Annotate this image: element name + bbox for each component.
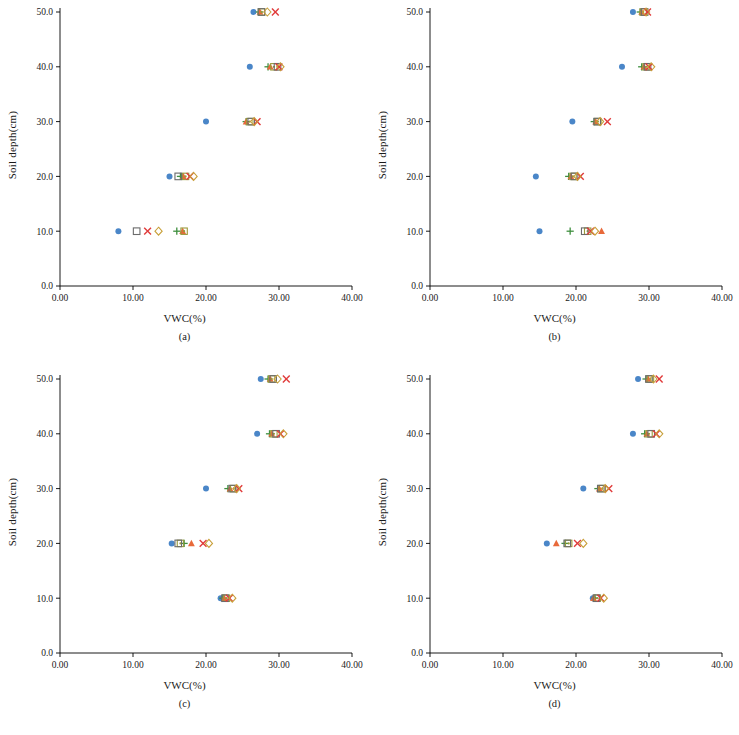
svg-text:20.0: 20.0 <box>36 539 53 549</box>
chart-panel-c: 0.010.020.030.040.050.00.0010.0020.0030.… <box>0 367 369 734</box>
chart-panel-a: 0.010.020.030.040.050.00.0010.0020.0030.… <box>0 0 369 367</box>
svg-text:40.0: 40.0 <box>406 429 423 439</box>
svg-text:0.00: 0.00 <box>422 293 439 303</box>
y-axis-label-c: Soil depth(cm) <box>6 442 18 582</box>
svg-text:50.0: 50.0 <box>36 374 53 384</box>
svg-text:0.0: 0.0 <box>41 281 53 291</box>
svg-text:30.00: 30.00 <box>638 293 660 303</box>
svg-text:20.00: 20.00 <box>195 660 217 670</box>
svg-text:30.0: 30.0 <box>36 484 53 494</box>
svg-text:0.0: 0.0 <box>411 648 423 658</box>
svg-text:10.00: 10.00 <box>492 660 514 670</box>
svg-text:40.00: 40.00 <box>711 293 733 303</box>
svg-text:40.0: 40.0 <box>36 429 53 439</box>
svg-text:50.0: 50.0 <box>406 7 423 17</box>
svg-text:10.00: 10.00 <box>122 660 144 670</box>
scatter-svg-a: 0.010.020.030.040.050.00.0010.0020.0030.… <box>0 0 369 330</box>
svg-text:0.0: 0.0 <box>411 281 423 291</box>
figure-grid: 0.010.020.030.040.050.00.0010.0020.0030.… <box>0 0 739 735</box>
y-axis-label-b: Soil depth(cm) <box>376 75 388 215</box>
panel-caption-c: (c) <box>0 698 369 709</box>
scatter-svg-c: 0.010.020.030.040.050.00.0010.0020.0030.… <box>0 367 369 697</box>
svg-text:10.00: 10.00 <box>492 293 514 303</box>
svg-text:30.0: 30.0 <box>36 117 53 127</box>
svg-text:40.0: 40.0 <box>36 62 53 72</box>
svg-text:30.00: 30.00 <box>268 660 290 670</box>
svg-text:10.0: 10.0 <box>406 594 423 604</box>
svg-text:40.00: 40.00 <box>711 660 733 670</box>
svg-text:10.0: 10.0 <box>36 227 53 237</box>
svg-text:40.00: 40.00 <box>341 660 363 670</box>
y-axis-label-d: Soil depth(cm) <box>376 442 388 582</box>
svg-text:20.00: 20.00 <box>565 660 587 670</box>
y-axis-label-a: Soil depth(cm) <box>6 75 18 215</box>
svg-text:50.0: 50.0 <box>36 7 53 17</box>
svg-text:10.0: 10.0 <box>36 594 53 604</box>
scatter-svg-b: 0.010.020.030.040.050.00.0010.0020.0030.… <box>370 0 739 330</box>
panel-caption-d: (d) <box>370 698 739 709</box>
chart-panel-b: 0.010.020.030.040.050.00.0010.0020.0030.… <box>370 0 739 367</box>
panel-caption-a: (a) <box>0 331 369 342</box>
svg-text:30.0: 30.0 <box>406 117 423 127</box>
svg-text:10.00: 10.00 <box>122 293 144 303</box>
x-axis-label-c: VWC(%) <box>0 679 369 691</box>
svg-text:30.0: 30.0 <box>406 484 423 494</box>
svg-text:10.0: 10.0 <box>406 227 423 237</box>
panel-caption-b: (b) <box>370 331 739 342</box>
svg-text:0.0: 0.0 <box>41 648 53 658</box>
svg-text:20.0: 20.0 <box>36 172 53 182</box>
svg-text:0.00: 0.00 <box>52 293 69 303</box>
svg-text:30.00: 30.00 <box>268 293 290 303</box>
x-axis-label-a: VWC(%) <box>0 312 369 324</box>
svg-text:50.0: 50.0 <box>406 374 423 384</box>
svg-text:20.0: 20.0 <box>406 539 423 549</box>
svg-text:0.00: 0.00 <box>52 660 69 670</box>
svg-text:30.00: 30.00 <box>638 660 660 670</box>
svg-text:40.00: 40.00 <box>341 293 363 303</box>
svg-text:20.00: 20.00 <box>195 293 217 303</box>
x-axis-label-d: VWC(%) <box>370 679 739 691</box>
svg-text:20.00: 20.00 <box>565 293 587 303</box>
svg-text:20.0: 20.0 <box>406 172 423 182</box>
x-axis-label-b: VWC(%) <box>370 312 739 324</box>
scatter-svg-d: 0.010.020.030.040.050.00.0010.0020.0030.… <box>370 367 739 697</box>
chart-panel-d: 0.010.020.030.040.050.00.0010.0020.0030.… <box>370 367 739 734</box>
svg-text:0.00: 0.00 <box>422 660 439 670</box>
svg-text:40.0: 40.0 <box>406 62 423 72</box>
